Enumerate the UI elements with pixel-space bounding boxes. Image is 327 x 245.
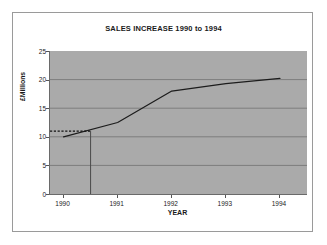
x-tick-label: 1992 [151,200,191,207]
y-tick-label: 25 [16,48,46,55]
chart-figure: SALES INCREASE 1990 to 1994 £Millions YE… [0,0,327,245]
plot-area [49,51,307,195]
y-tick-label: 10 [16,133,46,140]
data-layer [50,51,307,194]
series-line-sales [64,78,280,136]
y-tick-label: 20 [16,76,46,83]
y-axis-ticks: 0510152025 [13,51,46,194]
x-tick-label: 1990 [43,200,83,207]
plot-wrapper: 0510152025 19901991199219931994 [13,13,314,233]
x-tick-label: 1991 [97,200,137,207]
x-tick-mark [171,195,172,198]
x-tick-mark [63,195,64,198]
x-tick-mark [279,195,280,198]
y-tick-label: 15 [16,105,46,112]
y-tick-label: 5 [16,162,46,169]
x-tick-label: 1993 [205,200,245,207]
x-axis-ticks: 19901991199219931994 [49,195,306,209]
figure-frame: SALES INCREASE 1990 to 1994 £Millions YE… [12,12,313,232]
y-tick-label: 0 [16,191,46,198]
x-tick-label: 1994 [259,200,299,207]
gridlines-group [50,80,307,166]
x-tick-mark [117,195,118,198]
x-tick-mark [225,195,226,198]
